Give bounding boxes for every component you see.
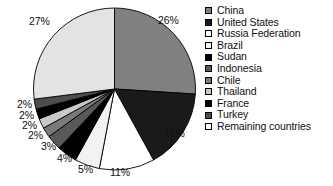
legend-item-label: Remaining countries [217, 121, 311, 133]
slice-percent-label: 11% [110, 166, 130, 178]
legend-swatch-icon [205, 19, 212, 26]
legend-swatch-icon [205, 30, 212, 37]
legend-swatch-icon [205, 123, 212, 130]
legend-item: Remaining countries [205, 121, 333, 133]
slice-percent-label: 2% [19, 109, 34, 121]
chart-legend: ChinaUnited StatesRussia FederationBrazi… [205, 5, 333, 135]
legend-swatch-icon [205, 42, 212, 49]
pie-slices [34, 8, 196, 170]
legend-swatch-icon [205, 100, 212, 107]
slice-percent-label: 27% [29, 15, 50, 27]
slice-percent-label: 26% [158, 14, 179, 26]
slice-percent-label: 3% [41, 140, 56, 152]
legend-swatch-icon [205, 54, 212, 61]
legend-item: China [205, 5, 333, 17]
legend-swatch-icon [205, 77, 212, 84]
legend-item: Thailand [205, 86, 333, 98]
slice-percent-label: 2% [17, 98, 32, 110]
legend-swatch-icon [205, 65, 212, 72]
legend-item: Indonesia [205, 63, 333, 75]
pie-plot-area: 26%16%11%5%4%3%2%2%2%2%27% [0, 0, 205, 186]
slice-percent-label: 16% [164, 127, 185, 139]
slice-percent-label: 5% [78, 163, 93, 175]
legend-swatch-icon [205, 88, 212, 95]
legend-swatch-icon [205, 7, 212, 14]
legend-item-label: Indonesia [217, 63, 262, 75]
pie-slice [115, 8, 196, 94]
legend-item-label: China [217, 5, 244, 17]
pie-chart-figure: 26%16%11%5%4%3%2%2%2%2%27% ChinaUnited S… [0, 0, 333, 186]
pie-svg [0, 0, 205, 186]
legend-swatch-icon [205, 112, 212, 119]
slice-percent-label: 4% [57, 152, 72, 164]
legend-item-label: Thailand [217, 86, 256, 98]
